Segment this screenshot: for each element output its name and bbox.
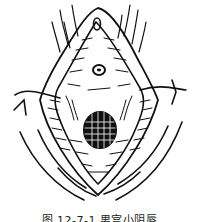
figure-caption: 图 12-7-1 男宫小阴唇	[0, 211, 199, 222]
vaginal-opening	[84, 112, 116, 148]
anatomy-line-drawing	[0, 0, 199, 222]
left-cross-mark	[14, 91, 60, 115]
